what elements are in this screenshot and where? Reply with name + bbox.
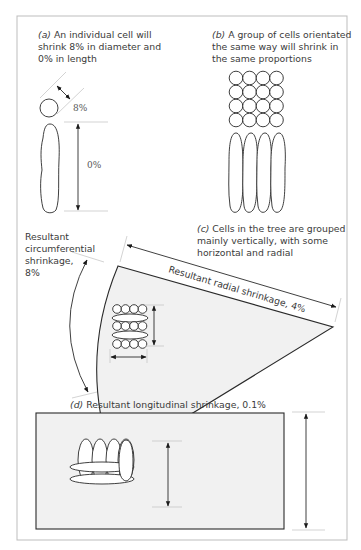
panel-b: (b) A group of cells orientated the same… (212, 29, 352, 212)
panel-c-text-line-1: (c) Cells in the tree are grouped (197, 223, 346, 234)
circumferential-label-line-4: 8% (25, 267, 40, 278)
panel-a: (a) An individual cell will shrink 8% in… (38, 29, 161, 213)
panel-c-text-line-3: horizontal and radial (197, 247, 293, 258)
log-longitudinal-section (36, 413, 284, 529)
panel-a-text-line-2: shrink 8% in diameter and (38, 41, 161, 52)
panel-d-text: (d) Resultant longitudinal shrinkage, 0.… (70, 399, 266, 410)
panel-b-text-line-1: (b) A group of cells orientated (212, 29, 352, 40)
guide-line (120, 236, 127, 262)
cell-longitudinal (41, 124, 60, 213)
circumferential-label-line-1: Resultant (25, 231, 69, 242)
circumferential-label-line-3: shrinkage, (25, 255, 74, 266)
circumferential-arrow-icon (70, 260, 88, 392)
cell-group-longitudinal (229, 133, 286, 212)
cell-cluster-in-wedge (112, 305, 148, 349)
diameter-shrinkage-value: 8% (73, 103, 88, 113)
panel-a-text-line-3: 0% in length (38, 53, 97, 64)
guide-line (40, 72, 66, 98)
panel-b-text-line-3: the same proportions (212, 53, 312, 64)
wood-shrinkage-diagram: (a) An individual cell will shrink 8% in… (0, 0, 361, 550)
diameter-arrow-icon (57, 86, 70, 99)
cell-cross-section (40, 99, 58, 117)
panel-a-text-line-1: (a) An individual cell will (38, 29, 152, 40)
circumferential-label-line-2: circumferential (25, 243, 95, 254)
guide-line (335, 298, 341, 322)
cell-grid-cross-section (229, 71, 283, 127)
length-shrinkage-value: 0% (87, 160, 102, 170)
guide-line (72, 392, 97, 398)
panel-d: (d) Resultant longitudinal shrinkage, 0.… (36, 399, 325, 530)
panel-b-text-line-2: the same way will shrink in (212, 41, 339, 52)
panel-c-text-line-2: mainly vertically, with some (197, 235, 328, 246)
